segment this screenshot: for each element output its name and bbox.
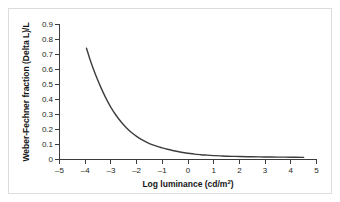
weber-fechner-chart: Weber-Fechner fraction (Delta L)/L 0 0.1…: [0, 0, 340, 202]
x-tick-label: 0: [186, 166, 191, 175]
x-axis-title-tail: ): [231, 179, 234, 189]
y-tick-label: 0.7: [42, 50, 54, 59]
x-tick-label: 1: [211, 166, 216, 175]
y-axis-title: Weber-Fechner fraction (Delta L)/L: [21, 22, 31, 161]
y-tick-label: 0: [49, 155, 54, 164]
x-axis-title: Log luminance (cd/m2): [142, 179, 233, 189]
x-axis-ticks: –5 –4 –3 –2 –1 0 1 2 3 4 5: [55, 160, 319, 176]
x-tick-label: 5: [314, 166, 319, 175]
y-tick-label: 0.6: [42, 65, 54, 74]
x-tick-label: –5: [55, 166, 64, 175]
y-axis-ticks: 0 0.1 0.2 0.3 0.4 0.5 0.6 0.7 0.8 0.9: [42, 20, 60, 164]
x-tick-label: –3: [106, 166, 115, 175]
y-tick-label: 0.9: [42, 20, 54, 29]
y-tick-label: 0.4: [42, 95, 54, 104]
y-tick-label: 0.8: [42, 35, 54, 44]
y-tick-label: 0.1: [42, 140, 54, 149]
figure-root: Weber-Fechner fraction (Delta L)/L 0 0.1…: [0, 0, 340, 202]
y-tick-label: 0.5: [42, 80, 54, 89]
y-tick-label: 0.3: [42, 110, 54, 119]
weber-fechner-curve: [86, 48, 303, 157]
x-tick-label: 3: [263, 166, 268, 175]
y-tick-label: 0.2: [42, 125, 54, 134]
x-axis-title-main: Log luminance (cd/m: [142, 179, 227, 189]
x-tick-label: –2: [132, 166, 141, 175]
x-tick-label: 2: [237, 166, 242, 175]
x-tick-label: 4: [289, 166, 294, 175]
x-tick-label: –4: [81, 166, 90, 175]
x-tick-label: –1: [158, 166, 167, 175]
